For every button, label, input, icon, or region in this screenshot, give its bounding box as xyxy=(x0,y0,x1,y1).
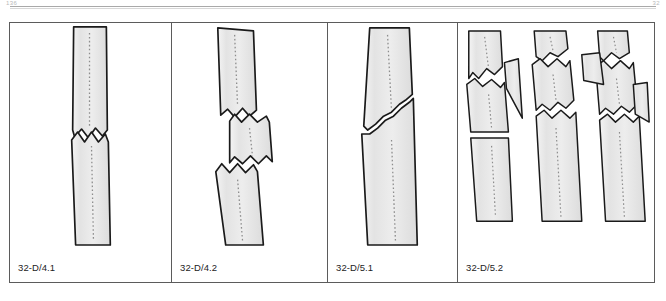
wedge-variant-a xyxy=(467,31,523,221)
panel-transverse-fracture[interactable]: 32-D/4.1 xyxy=(10,23,172,282)
bone-transverse-fracture-icon xyxy=(10,23,171,248)
page-root: 136 32 xyxy=(0,0,666,301)
panel-label: 32-D/4.1 xyxy=(18,262,55,273)
fracture-classification-figure: 32-D/4.1 xyxy=(9,22,655,283)
bone-comminuted-wedge-fracture-icon xyxy=(458,23,654,248)
wedge-variant-b xyxy=(532,31,582,221)
panel-oblique-fracture[interactable]: 32-D/5.1 xyxy=(328,23,458,282)
header-rule xyxy=(10,6,656,7)
wedge-variant-c xyxy=(582,31,649,221)
panel-segmental-fracture[interactable]: 32-D/4.2 xyxy=(172,23,328,282)
bone-oblique-fracture-icon xyxy=(328,23,457,248)
header-rule-secondary xyxy=(10,8,656,9)
panel-label: 32-D/4.2 xyxy=(180,262,217,273)
panel-comminuted-wedge-fracture[interactable]: 32-D/5.2 xyxy=(458,23,654,282)
bone-segmental-fracture-icon xyxy=(172,23,327,248)
panel-label: 32-D/5.1 xyxy=(336,262,373,273)
panel-label: 32-D/5.2 xyxy=(466,262,503,273)
